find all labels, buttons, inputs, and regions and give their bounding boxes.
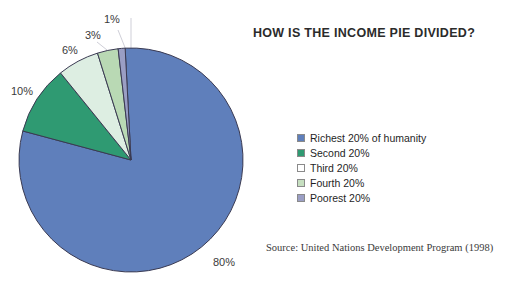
legend-swatch-icon [297, 164, 305, 172]
legend-swatch-icon [297, 134, 305, 142]
legend-swatch-icon [297, 149, 305, 157]
legend-item-label: Third 20% [310, 163, 358, 174]
legend-item-richest[interactable]: Richest 20% of humanity [297, 131, 457, 146]
legend-item-label: Fourth 20% [310, 178, 364, 189]
legend-item-fourth[interactable]: Fourth 20% [297, 176, 457, 191]
chart-page: HOW IS THE INCOME PIE DIVIDED? 80% 10% 6… [0, 0, 511, 288]
slice-label-fourth: 3% [85, 29, 101, 41]
legend-item-poorest[interactable]: Poorest 20% [297, 191, 457, 206]
legend-swatch-icon [297, 194, 305, 202]
slice-label-richest: 80% [213, 256, 235, 268]
legend-item-label: Richest 20% of humanity [310, 133, 426, 144]
pie-chart-svg [0, 0, 270, 288]
legend-item-second[interactable]: Second 20% [297, 146, 457, 161]
slice-label-poorest: 1% [104, 13, 120, 25]
legend-item-label: Second 20% [310, 148, 370, 159]
legend-item-label: Poorest 20% [310, 193, 370, 204]
slice-label-second: 10% [11, 85, 33, 97]
pie-slices [19, 48, 243, 272]
pie-chart: 80% 10% 6% 3% 1% [0, 0, 270, 288]
legend-swatch-icon [297, 179, 305, 187]
slice-label-third: 6% [62, 44, 78, 56]
source-note: Source: United Nations Development Progr… [266, 242, 493, 253]
legend: Richest 20% of humanity Second 20% Third… [297, 131, 457, 206]
legend-item-third[interactable]: Third 20% [297, 161, 457, 176]
